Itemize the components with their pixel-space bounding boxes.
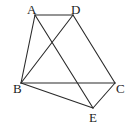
diagram-canvas: A D B C E xyxy=(0,0,133,131)
point-label-d: D xyxy=(71,2,80,17)
segment-be xyxy=(21,83,93,108)
segment-bd xyxy=(21,15,73,83)
point-label-b: B xyxy=(13,81,22,96)
point-label-a: A xyxy=(27,2,37,17)
segment-ab xyxy=(21,15,35,83)
geometry-figure: A D B C E xyxy=(0,0,133,131)
point-label-c: C xyxy=(116,81,125,96)
point-label-e: E xyxy=(89,110,97,125)
segments-group xyxy=(21,15,115,108)
segment-ce xyxy=(93,83,115,108)
segment-dc xyxy=(73,15,115,83)
segment-ae xyxy=(35,15,93,108)
